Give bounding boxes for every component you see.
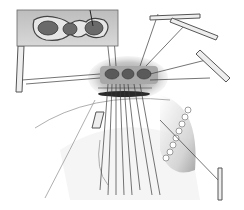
pick-icon xyxy=(92,112,104,128)
inset-closeup xyxy=(17,10,118,46)
clamp-right-icon xyxy=(170,18,218,40)
illustration-canvas xyxy=(0,0,244,210)
forceps-bottom-icon xyxy=(218,168,222,200)
retractor-left-icon xyxy=(16,46,24,92)
surgical-illustration: surgical line illustration with inset cl… xyxy=(0,0,244,210)
clamp-lower-right-icon xyxy=(196,50,230,82)
